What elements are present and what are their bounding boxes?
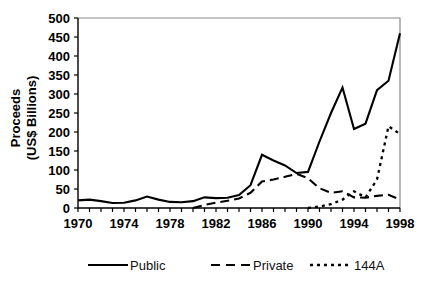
x-tick-label: 1994 <box>340 216 370 231</box>
x-tick-label: 1982 <box>202 216 231 231</box>
y-tick-label: 200 <box>48 125 70 140</box>
y-tick-label: 450 <box>48 30 70 45</box>
legend-label-144a: 144A <box>354 258 385 273</box>
x-tick-label: 1986 <box>248 216 277 231</box>
x-tick-label: 1998 <box>386 216 415 231</box>
legend-label-private: Private <box>253 258 293 273</box>
y-axis-title-line-2: (US$ Billions) <box>24 76 39 161</box>
legend-label-public: Public <box>130 258 166 273</box>
y-tick-label: 500 <box>48 11 70 26</box>
y-tick-label: 350 <box>48 68 70 83</box>
y-tick-label: 50 <box>56 182 70 197</box>
x-tick-label: 1978 <box>156 216 185 231</box>
y-tick-label: 400 <box>48 49 70 64</box>
x-tick-label: 1970 <box>64 216 93 231</box>
y-tick-label: 250 <box>48 106 70 121</box>
y-tick-label: 300 <box>48 87 70 102</box>
y-tick-label: 0 <box>63 201 70 216</box>
chart-container: 050100150200250300350400450500 197019741… <box>0 0 421 282</box>
y-tick-label: 150 <box>48 144 70 159</box>
y-axis-title-line-1: Proceeds <box>8 89 23 148</box>
x-tick-label: 1974 <box>110 216 140 231</box>
proceeds-line-chart: 050100150200250300350400450500 197019741… <box>0 0 421 282</box>
y-tick-label: 100 <box>48 163 70 178</box>
x-tick-label: 1990 <box>294 216 323 231</box>
